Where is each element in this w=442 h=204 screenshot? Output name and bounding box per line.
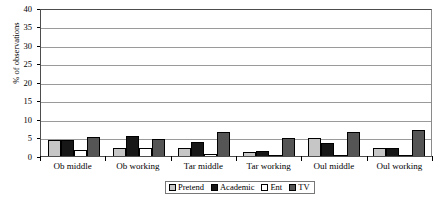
bar-group bbox=[366, 10, 431, 156]
x-tick-label: Ob middle bbox=[40, 161, 105, 175]
bar bbox=[308, 138, 321, 157]
legend-label: Ent bbox=[270, 183, 282, 192]
x-tick-label: Ob working bbox=[105, 161, 170, 175]
y-tick-label: 40 bbox=[6, 5, 32, 14]
bar bbox=[87, 137, 100, 156]
legend-item[interactable]: Ent bbox=[261, 183, 282, 192]
bar bbox=[126, 136, 139, 156]
legend-swatch-icon bbox=[289, 184, 296, 191]
y-tick-mark bbox=[37, 27, 40, 28]
bar bbox=[386, 148, 399, 156]
y-tick-label: 10 bbox=[6, 116, 32, 125]
x-axis-labels: Ob middleOb workingTar middleTar working… bbox=[40, 161, 432, 175]
bar bbox=[373, 148, 386, 156]
bar bbox=[412, 130, 425, 156]
bar bbox=[191, 142, 204, 156]
y-tick-mark bbox=[37, 101, 40, 102]
bar-group bbox=[236, 10, 301, 156]
legend-label: Pretend bbox=[178, 183, 204, 192]
bar-groups bbox=[41, 10, 431, 156]
bar bbox=[178, 148, 191, 157]
bar bbox=[282, 138, 295, 156]
y-tick-mark bbox=[37, 138, 40, 139]
bar-group bbox=[301, 10, 366, 156]
legend-item[interactable]: Academic bbox=[211, 183, 254, 192]
y-tick-mark bbox=[37, 120, 40, 121]
x-tick-label: Tar middle bbox=[171, 161, 236, 175]
y-tick-mark bbox=[37, 9, 40, 10]
bar bbox=[48, 140, 61, 156]
legend-swatch-icon bbox=[261, 184, 268, 191]
legend-swatch-icon bbox=[211, 184, 218, 191]
chart-legend: PretendAcademicEntTV bbox=[165, 181, 315, 194]
bar bbox=[347, 132, 360, 156]
y-tick-label: 35 bbox=[6, 23, 32, 32]
bar bbox=[139, 148, 152, 157]
legend-label: Academic bbox=[220, 183, 254, 192]
legend-item[interactable]: Pretend bbox=[169, 183, 204, 192]
y-tick-label: 30 bbox=[6, 42, 32, 51]
legend-swatch-icon bbox=[169, 184, 176, 191]
y-tick-mark bbox=[37, 64, 40, 65]
bar-chart: % of observations 0510152025303540 Ob mi… bbox=[0, 0, 442, 204]
legend-label: TV bbox=[298, 183, 309, 192]
x-tick-label: Tar working bbox=[236, 161, 301, 175]
x-tick-label: Oul middle bbox=[301, 161, 366, 175]
y-tick-label: 20 bbox=[6, 79, 32, 88]
bar bbox=[321, 143, 334, 156]
bar-group bbox=[41, 10, 106, 156]
x-tick-label: Oul working bbox=[367, 161, 432, 175]
y-tick-label: 15 bbox=[6, 97, 32, 106]
bar bbox=[61, 140, 74, 156]
bar bbox=[152, 139, 165, 156]
bar bbox=[113, 148, 126, 156]
y-tick-mark bbox=[37, 46, 40, 47]
x-tick-mark bbox=[432, 156, 433, 161]
bar-group bbox=[106, 10, 171, 156]
y-tick-label: 0 bbox=[6, 153, 32, 162]
y-tick-label: 5 bbox=[6, 134, 32, 143]
y-tick-label: 25 bbox=[6, 60, 32, 69]
bar-group bbox=[171, 10, 236, 156]
legend-item[interactable]: TV bbox=[289, 183, 309, 192]
y-tick-mark bbox=[37, 83, 40, 84]
bar bbox=[217, 132, 230, 156]
